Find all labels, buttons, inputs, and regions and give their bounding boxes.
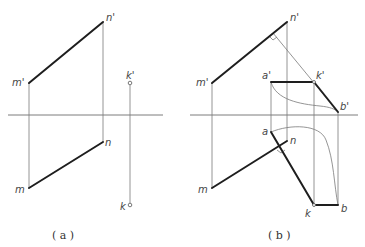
label-m-prime-a: m' (12, 77, 25, 88)
caption-b: ( b ) (268, 229, 291, 242)
label-n-prime-b: n' (290, 12, 299, 23)
point-k-a (128, 203, 132, 207)
construction-curve-front-b (271, 82, 338, 112)
label-k-a: k (120, 201, 127, 212)
figure-b: m' n' a' k' b' m n a k b ( b ) (190, 12, 358, 242)
line-m-n-b (212, 141, 287, 188)
point-k-b (313, 204, 316, 207)
projection-diagram: m' n' k' m n k ( a ) m (0, 0, 365, 247)
label-k-prime-a: k' (126, 70, 135, 81)
label-n-a: n (105, 137, 111, 148)
caption-a: ( a ) (52, 229, 74, 242)
label-n-prime-a: n' (106, 12, 115, 23)
label-n-b: n (290, 135, 296, 146)
label-a-prime-b: a' (262, 70, 271, 81)
line-m-prime-n-prime-b (212, 22, 287, 83)
label-a-b: a (262, 126, 268, 137)
line-m-prime-n-prime-a (29, 22, 103, 83)
label-m-prime-b: m' (196, 77, 209, 88)
label-m-a: m (15, 184, 25, 195)
construction-curve-top-b (271, 127, 338, 205)
point-k-prime-a (128, 81, 132, 85)
label-k-b: k (305, 208, 312, 219)
label-k-prime-b: k' (316, 70, 325, 81)
line-m-n-a (29, 142, 103, 188)
label-m-b: m (198, 184, 208, 195)
label-b-prime-b: b' (340, 101, 349, 112)
line-k-prime-b-prime-b (314, 82, 338, 112)
label-b-b: b (341, 203, 347, 214)
figure-a: m' n' k' m n k ( a ) (8, 12, 163, 242)
